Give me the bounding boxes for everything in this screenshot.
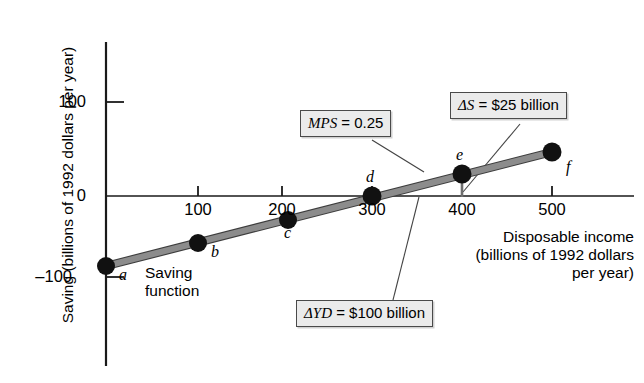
delta-s-callout-value: = $25 billion [474,96,559,113]
delta-yd-callout-symbol: ΔYD [304,305,332,321]
x-axis-title-line-1: Disposable income [372,228,634,246]
saving-function-label-line-2: function [145,282,199,300]
data-point-f [543,143,562,162]
x-tick-label-200: 200 [254,200,310,219]
point-label-c: c [284,224,291,242]
mps-callout-value: = 0.25 [337,114,383,131]
delta-yd-callout: ΔYD = $100 billion [296,300,433,327]
delta-s-callout: ΔS = $25 billion [450,92,567,119]
point-label-a: a [119,266,127,284]
x-tick-label-100: 100 [170,200,226,219]
saving-function-chart: Saving (billions of 1992 dollars per yea… [0,0,644,383]
data-point-e [453,165,472,184]
x-axis-title: Disposable income (billions of 1992 doll… [372,228,634,282]
mps-callout: MPS = 0.25 [300,110,391,137]
x-tick-label-500: 500 [524,200,580,219]
data-point-a [97,257,115,275]
y-tick-label-neg100: –100 [16,267,72,286]
delta-yd-callout-value: = $100 billion [332,304,425,321]
y-tick-label-0: 0 [30,186,86,205]
mps-leader-line [372,140,424,172]
x-axis-title-line-2: (billions of 1992 dollars [372,246,634,264]
saving-function-label: Saving function [145,264,199,299]
x-axis-title-line-3: per year) [372,264,634,282]
mps-callout-symbol: MPS [308,115,337,131]
point-label-b: b [211,243,219,261]
data-point-b [189,234,207,252]
delta-s-callout-symbol: ΔS [458,97,474,113]
x-tick-label-400: 400 [434,200,490,219]
y-tick-label-100: 100 [30,92,86,111]
delta-s-leader-line [463,124,520,192]
y-axis-title: Saving (billions of 1992 dollars per yea… [59,25,77,345]
x-tick-label-300: 300 [344,200,400,219]
point-label-f: f [566,158,570,176]
point-label-d: d [366,168,374,186]
point-label-e: e [456,146,463,164]
saving-function-label-line-1: Saving [145,264,199,282]
